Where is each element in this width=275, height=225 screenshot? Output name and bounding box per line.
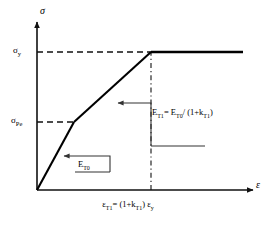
et1-rhs-close: ) [210, 107, 213, 117]
epsilon-t1-equals: = [113, 199, 118, 209]
et1-lhs-subscript: T1 [157, 113, 164, 119]
et1-equals: = [164, 107, 169, 117]
epsilon-t1-rhs-subscript: T1 [136, 205, 143, 211]
et1-rhs-tail: / (1+k [183, 107, 204, 117]
sigma-pe-tick-label: σPe [11, 116, 22, 127]
x-axis-label: ε [256, 180, 260, 190]
et1-rhs-subscript: T0 [176, 113, 183, 119]
stress-strain-figure: σ ε σy σPe ET0 ET1= ET0/ (1+kT1) εT1= (1… [0, 0, 275, 225]
et1-callout-leader [118, 103, 151, 146]
epsilon-t1-note-label: εT1= (1+kT1) εy [102, 200, 154, 211]
et0-subscript: T0 [83, 165, 90, 171]
epsilon-t1-rhs-close: ) ε [142, 199, 151, 209]
sigma-y-tick-label: σy [13, 46, 21, 57]
y-axis-label: σ [40, 6, 45, 16]
et1-callout-label: ET1= ET0/ (1+kT1) [152, 108, 213, 119]
curve-segment-reduced-tangent [74, 52, 151, 122]
et1-rhs-tail-subscript: T1 [203, 113, 210, 119]
epsilon-t1-rhs: (1+k [119, 199, 135, 209]
sigma-pe-subscript: Pe [16, 120, 23, 127]
epsilon-t1-rhs-close-subscript: y [151, 205, 154, 211]
figure-canvas [0, 0, 275, 225]
sigma-y-subscript: y [18, 50, 21, 57]
et0-callout-label: ET0 [78, 160, 90, 171]
